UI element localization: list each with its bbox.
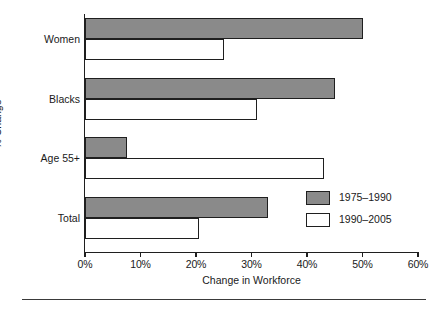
x-axis-title: Change in Workforce [85,274,418,286]
y-axis-label-age-55: Age 55+ [0,152,80,164]
x-axis-tick [306,252,307,257]
bar-chart-figure: 0%10%20%30%40%50%60% WomenBlacksAge 55+T… [0,0,434,309]
y-axis-title: % Change [0,99,3,148]
bar-blacks-series1 [85,78,335,99]
x-axis-tick-label: 50% [352,258,373,270]
y-axis-label-total: Total [0,212,80,224]
x-axis-tick-label: 60% [408,258,429,270]
x-axis-tick [84,252,85,257]
x-axis-tick [251,252,252,257]
legend-swatch-1990-2005-icon [306,213,330,227]
bottom-divider [22,299,426,300]
bar-total-series2 [85,218,199,239]
y-axis-label-women: Women [0,33,80,45]
x-axis-tick [417,252,418,257]
x-axis-tick-label: 0% [78,258,93,270]
x-axis-tick-label: 10% [130,258,151,270]
bar-women-series1 [85,18,363,39]
x-axis-tick-label: 20% [186,258,207,270]
legend-swatch-1975-1990-icon [306,191,330,205]
bar-total-series1 [85,197,268,218]
bar-blacks-series2 [85,99,257,120]
legend-label-period1: 1975–1990 [339,191,392,203]
legend-label-period2: 1990–2005 [339,213,392,225]
bar-age-55-series2 [85,158,324,179]
x-axis-tick [195,252,196,257]
y-axis-label-blacks: Blacks [0,93,80,105]
x-axis-tick [362,252,363,257]
x-axis-tick-label: 40% [297,258,318,270]
x-axis-tick-label: 30% [241,258,262,270]
x-axis-tick [140,252,141,257]
bar-women-series2 [85,39,224,60]
bar-age-55-series1 [85,137,127,158]
